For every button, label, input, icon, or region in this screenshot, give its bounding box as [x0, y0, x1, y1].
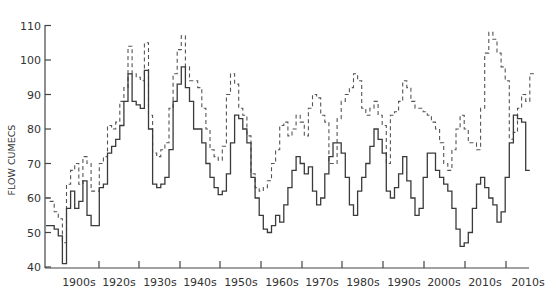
y-tick-label: 40	[27, 261, 41, 274]
solid-flow-series	[46, 67, 530, 264]
x-tick-label: 1940s	[183, 276, 217, 289]
y-tick-label: 60	[27, 192, 41, 205]
y-axis-ticks: 405060708090100110	[20, 20, 51, 275]
x-tick-label: 1990s	[387, 276, 421, 289]
x-tick-label: 1930s	[143, 276, 177, 289]
x-tick-label: 2000s	[427, 276, 461, 289]
x-axis-ticks: 1900s1920s1930s1940s1950s1960s1970s1980s…	[62, 261, 545, 289]
y-tick-label: 70	[27, 158, 41, 171]
x-tick-label: 2010s	[468, 276, 502, 289]
y-tick-label: 90	[27, 89, 41, 102]
x-tick-label: 1970s	[305, 276, 339, 289]
x-tick-label: 1950s	[224, 276, 258, 289]
y-tick-label: 50	[27, 227, 41, 240]
x-tick-label: 1980s	[346, 276, 380, 289]
x-tick-label: 1900s	[62, 276, 96, 289]
x-tick-label: 2010s	[511, 276, 545, 289]
y-tick-label: 110	[20, 20, 41, 33]
y-axis-title: FLOW CUMECS	[6, 125, 17, 196]
y-tick-label: 80	[27, 123, 41, 136]
y-tick-label: 100	[20, 54, 41, 67]
x-tick-label: 1920s	[102, 276, 136, 289]
flow-chart: FLOW CUMECS 405060708090100110 1900s1920…	[0, 0, 556, 298]
x-tick-label: 1960s	[265, 276, 299, 289]
